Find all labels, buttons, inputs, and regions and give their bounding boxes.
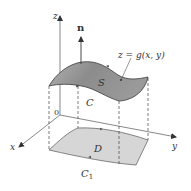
x-axis bbox=[19, 115, 60, 147]
z-axis-label: z bbox=[52, 11, 58, 21]
boundary-curve-label: C bbox=[86, 97, 94, 108]
normal-vector-label: n bbox=[77, 22, 85, 33]
surface-label: S bbox=[98, 77, 105, 88]
x-axis-label: x bbox=[10, 142, 15, 152]
surface-equation-label: z = g(x, y) bbox=[117, 50, 165, 60]
stokes-theorem-diagram: z x y 0 n S z = g(x, y) C D C1 bbox=[0, 0, 191, 191]
origin-label: 0 bbox=[54, 108, 59, 117]
y-axis-label: y bbox=[171, 141, 178, 151]
region-boundary-label: C1 bbox=[81, 168, 93, 181]
equation-pointer bbox=[121, 58, 131, 80]
region-label: D bbox=[93, 143, 102, 154]
